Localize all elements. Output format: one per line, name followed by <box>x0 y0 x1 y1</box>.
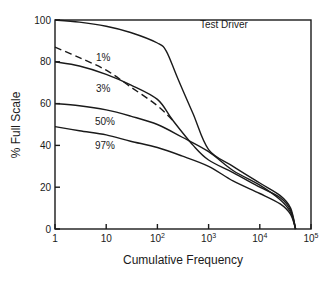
curve-label: 97% <box>95 140 115 151</box>
curve-97pct <box>55 127 296 229</box>
x-tick-label: 102 <box>150 232 165 244</box>
y-axis-title: % Full Scale <box>9 91 23 158</box>
curve-label: 50% <box>95 116 115 127</box>
x-tick-label: 10 <box>101 233 113 244</box>
y-tick-label: 20 <box>40 182 52 193</box>
x-tick-label: 1 <box>52 233 58 244</box>
y-tick-label: 40 <box>40 140 52 151</box>
y-tick-label: 60 <box>40 98 52 109</box>
curve-label: 3% <box>96 83 111 94</box>
curve-3pct <box>55 62 296 229</box>
x-tick-label: 103 <box>201 232 216 244</box>
x-tick-label: 105 <box>303 232 318 244</box>
chart: 020406080100 110102103104105 Test Driver… <box>0 0 334 282</box>
curve-label: 1% <box>96 52 111 63</box>
curves: Test Driver1%3%50%97% <box>55 19 296 229</box>
plot-frame <box>55 20 311 229</box>
curve-1pct <box>55 47 173 120</box>
curve-label: Test Driver <box>200 19 248 30</box>
y-tick-label: 100 <box>34 15 51 26</box>
x-axis: 110102103104105 <box>52 224 318 244</box>
x-axis-title: Cumulative Frequency <box>123 253 243 267</box>
y-tick-label: 0 <box>45 224 51 235</box>
x-tick-label: 104 <box>252 232 267 244</box>
y-tick-label: 80 <box>40 56 52 67</box>
